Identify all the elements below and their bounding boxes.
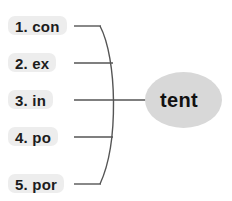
word-web-diagram: 1. con 2. ex 3. in 4. po 5. por tent [0, 0, 232, 201]
root-word-text: tent [160, 89, 198, 112]
prefix-label-2[interactable]: 2. ex [8, 53, 56, 72]
prefix-label-5[interactable]: 5. por [8, 174, 64, 193]
prefix-label-1[interactable]: 1. con [8, 16, 67, 35]
prefix-label-4-text: 4. po [15, 129, 51, 146]
prefix-label-3[interactable]: 3. in [8, 90, 53, 109]
prefix-label-4[interactable]: 4. po [8, 127, 58, 146]
bracket-arc [100, 26, 114, 184]
prefix-label-2-text: 2. ex [15, 55, 49, 72]
prefix-label-1-text: 1. con [15, 18, 60, 35]
prefix-label-5-text: 5. por [15, 176, 57, 193]
prefix-label-3-text: 3. in [15, 92, 46, 109]
